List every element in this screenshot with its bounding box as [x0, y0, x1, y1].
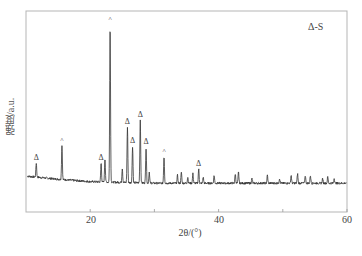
peak-marker: Δ	[196, 159, 201, 168]
peak-marker: Δ	[99, 153, 104, 162]
peak-marker: ^	[108, 15, 112, 23]
peak-marker: Δ	[34, 153, 39, 162]
xrd-chart: Δ^Δ^ΔΔΔΔ^Δ	[0, 0, 362, 256]
peak-marker: ^	[60, 136, 64, 144]
y-axis-label: 强度/a.u.	[3, 96, 17, 136]
peak-marker: Δ	[143, 137, 148, 146]
x-axis-label: 2θ/(°)	[165, 227, 215, 238]
peak-marker: Δ	[125, 117, 130, 126]
x-tick-label-20: 20	[76, 214, 106, 225]
peak-marker: Δ	[138, 110, 143, 119]
peak-marker: ^	[162, 147, 166, 155]
legend: Δ-S	[308, 21, 323, 32]
x-tick-label-60: 60	[332, 214, 362, 225]
xrd-trace	[27, 32, 346, 185]
peak-markers: Δ^Δ^ΔΔΔΔ^Δ	[34, 15, 202, 168]
peak-marker: Δ	[130, 136, 135, 145]
x-tick-label-40: 40	[204, 214, 234, 225]
